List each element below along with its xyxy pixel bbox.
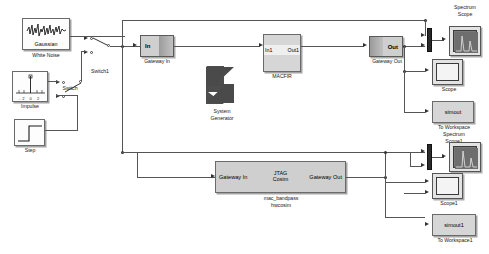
to-workspace-bottom-caption: To Workspace1 — [424, 237, 486, 243]
spectrum-trace-bottom-icon — [455, 148, 478, 169]
spectrumscope-top-input-arrow — [442, 37, 446, 41]
scope-bottom-caption: Scope1 — [430, 200, 468, 206]
gatewayout-input-arrow — [363, 43, 367, 47]
to-workspace-top-block[interactable]: simout — [432, 101, 474, 123]
impulse-axis-ticks: -2 0 2 — [13, 96, 47, 101]
gateway-in-block[interactable]: In — [140, 35, 174, 57]
wire-impulse-out — [48, 81, 58, 82]
mux-bottom-input1-arrow — [421, 149, 425, 153]
to-workspace-top-caption-line1: To Workspace — [425, 124, 483, 130]
wire-gaussian-to-switch1 — [70, 36, 86, 37]
branch-node-bus-lower-right — [384, 151, 387, 154]
wire-bus-vertical — [122, 20, 123, 153]
macfir-subsystem-block[interactable]: In1 Out1 — [263, 34, 301, 72]
wire-bus-to-hwcosim — [137, 152, 138, 177]
hwcosim-jtag-line2: Cosim — [216, 176, 345, 182]
wire-step-up — [77, 95, 78, 131]
to-workspace-bottom-label: simout1 — [433, 222, 475, 228]
gateway-out-port-label: Out — [388, 44, 398, 50]
scope-bottom-block[interactable] — [432, 173, 463, 199]
simulink-model-canvas: Gaussian White Noise -2 0 2 Impulse Step — [0, 0, 489, 254]
to-workspace-bottom-block[interactable]: simout1 — [432, 214, 476, 236]
spectrum-scope-top-caption-line2: Scope — [441, 11, 489, 17]
wire-bus-to-hwcosim-h — [137, 177, 215, 178]
spectrum-scope-bottom-block[interactable] — [449, 142, 481, 172]
wire-hwcosim-down-h — [385, 217, 425, 218]
gatewayin-input-arrow — [133, 43, 137, 47]
switch1-contact2 — [90, 51, 93, 54]
wire-gatewayout-ws-h — [404, 112, 425, 113]
wire-gatewayout-down — [404, 46, 405, 72]
step-block[interactable] — [14, 119, 45, 146]
wire-hwcosim-up — [385, 152, 386, 177]
step-caption: Step — [2, 147, 58, 153]
scope-bottom-input2-arrow — [425, 190, 429, 194]
system-generator-caption-line1: System — [185, 108, 259, 114]
spectrum-scope1-caption-line1: Spectrum — [425, 131, 483, 137]
hwcosim-caption-line2: hwcosim — [240, 202, 322, 208]
wire-to-mux2-in2-v — [410, 152, 411, 166]
scope-top-block[interactable] — [432, 59, 463, 85]
wire-bus-to-mux1 — [425, 20, 426, 36]
system-generator-caption-line2: Generator — [185, 115, 259, 121]
noise-waveform-icon — [26, 22, 67, 38]
wire-to-scope1-in1 — [385, 182, 425, 183]
impulse-waveform-icon — [14, 73, 47, 95]
scope-bottom-screen — [436, 177, 459, 195]
gateway-in-port-label: In — [145, 43, 150, 49]
scope-top-caption: Scope — [430, 86, 468, 92]
scope-bottom-input1-arrow — [425, 179, 429, 183]
wire-gatewayout-to-scope — [404, 71, 425, 72]
spectrum-scope-bottom-screen — [453, 146, 477, 168]
spectrum-scope-top-screen — [453, 30, 477, 52]
toworkspace-top-input-arrow — [425, 109, 429, 113]
scope-top-input-arrow — [425, 68, 429, 72]
wire-switch-out-to-switch1 — [81, 51, 86, 52]
step-waveform-icon — [17, 122, 43, 144]
wire-bus-lower-right — [122, 152, 425, 153]
wire-step-to-switch — [56, 95, 78, 96]
xilinx-logo-shape — [200, 63, 244, 107]
spectrumscope-bottom-input-arrow — [442, 154, 446, 158]
wire-hwcosim-out — [346, 177, 385, 178]
gateway-in-caption: Gateway In — [130, 58, 184, 64]
mux-top-input2-arrow — [421, 43, 425, 47]
macfir-caption: MACFIR — [258, 73, 306, 79]
wire-gatewayout-to-ws — [404, 71, 405, 112]
gateway-out-block[interactable]: Out — [369, 36, 403, 57]
wire-gaussian-drop — [124, 36, 125, 37]
impulse-caption: Impulse — [2, 103, 58, 109]
wire-switch-out-up — [81, 51, 82, 81]
macfir-out-port-label: Out1 — [288, 47, 299, 53]
to-workspace-top-label: simout — [433, 109, 473, 115]
wire-to-mux2-in2 — [410, 166, 422, 167]
wire-to-scope1-in2 — [404, 193, 425, 194]
spectrum-scope-top-block[interactable] — [449, 26, 481, 56]
wire-step-out — [45, 130, 78, 131]
wire-gatewayin-to-macfir — [174, 46, 260, 47]
spectrum-trace-icon — [455, 32, 478, 53]
gaussian-noise-block[interactable]: Gaussian — [22, 18, 70, 50]
white-noise-caption: White Noise — [10, 52, 82, 58]
spectrum-scope-top-caption-line1: Spectrum — [441, 4, 489, 10]
hwcosim-block[interactable]: Gateway In Gateway Out JTAG Cosim — [215, 161, 346, 193]
mux-top-input1-arrow — [421, 33, 425, 37]
switch1-caption: Switch1 — [76, 68, 124, 74]
impulse-block[interactable]: -2 0 2 — [12, 71, 48, 102]
gateway-out-caption: Gateway Out — [360, 58, 414, 64]
toworkspace-bottom-input-arrow — [425, 222, 429, 226]
wire-bus-top — [122, 20, 425, 21]
switch-caption: Switch — [46, 85, 94, 91]
gaussian-inner-label: Gaussian — [23, 41, 69, 47]
wire-hwcosim-down — [385, 177, 386, 217]
hwcosim-caption-line1: mac_bandpass — [240, 195, 322, 201]
wire-macfir-to-gatewayout — [301, 46, 364, 47]
scope-top-screen — [436, 63, 459, 81]
macfir-in-port-label: In1 — [265, 47, 272, 53]
